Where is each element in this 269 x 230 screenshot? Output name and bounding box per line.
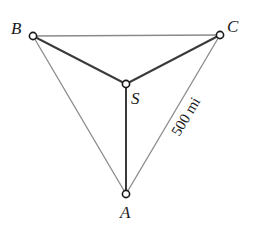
label-a: A — [119, 203, 131, 222]
label-c: C — [227, 17, 239, 36]
vertex-a — [122, 190, 129, 197]
vertex-b — [29, 32, 36, 39]
label-b: B — [11, 19, 22, 38]
edge-b-c — [33, 35, 220, 36]
triangle-diagram: B C S A 500 mi — [0, 0, 269, 230]
vertex-c — [216, 31, 223, 38]
vertex-s — [122, 80, 129, 87]
label-s: S — [131, 89, 140, 108]
distance-label: 500 mi — [168, 94, 203, 138]
